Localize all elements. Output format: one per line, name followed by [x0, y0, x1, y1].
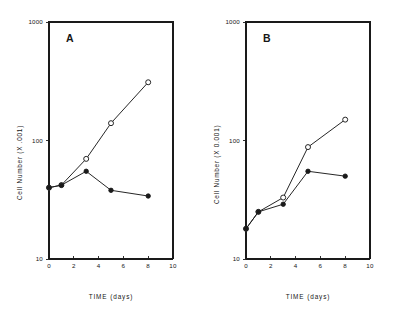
panel-a-y-tick-labels: 1000 100 10: [28, 18, 43, 262]
y-tick-label-1000: 1000: [28, 18, 43, 25]
panel-b-series-filled: [244, 169, 348, 231]
data-point-marker: [84, 156, 89, 161]
figure-root: 1000 100 10 0 2 4 6 8 10 A Cell: [0, 0, 393, 316]
x-tick-label-10: 10: [169, 262, 177, 269]
x-tick-label-6: 6: [319, 262, 323, 269]
x-tick-label-0: 0: [244, 262, 248, 269]
panel-b: 1000 100 10 0 2 4 6 8 10 B Cell: [197, 0, 393, 316]
panel-b-plot: 1000 100 10 0 2 4 6 8 10 B Cell: [197, 0, 393, 316]
series-line: [49, 82, 148, 187]
x-tick-label-10: 10: [366, 262, 374, 269]
y-tick-label-100: 100: [229, 137, 240, 144]
x-tick-label-8: 8: [343, 262, 347, 269]
data-point-marker: [306, 145, 311, 150]
series-line: [246, 171, 345, 228]
panel-a-plot: 1000 100 10 0 2 4 6 8 10 A Cell: [0, 0, 196, 316]
panel-a-x-tick-labels: 0 2 4 6 8 10: [47, 262, 177, 269]
y-tick-label-10: 10: [36, 255, 44, 262]
data-point-marker: [256, 210, 260, 214]
data-point-marker: [281, 202, 285, 206]
panel-a: 1000 100 10 0 2 4 6 8 10 A Cell: [0, 0, 196, 316]
data-point-marker: [146, 194, 150, 198]
x-tick-label-4: 4: [97, 262, 101, 269]
data-point-marker: [146, 80, 151, 85]
x-tick-label-0: 0: [47, 262, 51, 269]
data-point-marker: [281, 195, 286, 200]
panel-b-y-tick-labels: 1000 100 10: [225, 18, 240, 262]
data-point-marker: [306, 169, 310, 173]
panel-b-x-tick-labels: 0 2 4 6 8 10: [244, 262, 374, 269]
frame-left-top-right: [246, 22, 370, 259]
x-axis-title: TIME (days): [89, 293, 134, 301]
data-point-marker: [109, 188, 113, 192]
y-axis-title: Cell Number (X .001): [16, 125, 24, 200]
series-line: [49, 171, 148, 196]
data-point-marker: [47, 185, 51, 189]
panel-a-frame: [49, 22, 173, 259]
data-point-marker: [84, 169, 88, 173]
y-tick-label-1000: 1000: [225, 18, 240, 25]
data-point-marker: [343, 117, 348, 122]
data-point-marker: [244, 227, 248, 231]
x-tick-label-8: 8: [146, 262, 150, 269]
data-point-marker: [109, 121, 114, 126]
panel-a-series-filled: [47, 169, 151, 198]
y-tick-label-100: 100: [32, 137, 43, 144]
x-tick-label-6: 6: [122, 262, 126, 269]
frame-left-top-right: [49, 22, 173, 259]
panel-b-frame: [246, 22, 370, 259]
x-tick-label-4: 4: [294, 262, 298, 269]
x-axis-title: TIME (days): [286, 293, 331, 301]
x-tick-label-2: 2: [72, 262, 76, 269]
y-tick-label-10: 10: [233, 255, 241, 262]
panel-letter-b: B: [263, 32, 271, 44]
panel-a-series-open: [47, 80, 151, 190]
x-tick-label-2: 2: [269, 262, 273, 269]
y-axis-title: Cell Number (X 0.001): [213, 125, 221, 204]
panel-letter-a: A: [66, 32, 74, 44]
data-point-marker: [343, 174, 347, 178]
data-point-marker: [59, 183, 63, 187]
